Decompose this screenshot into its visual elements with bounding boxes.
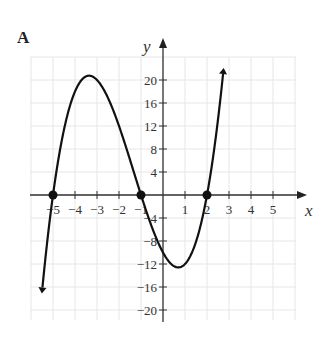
x-tick-label: −4 bbox=[68, 202, 82, 217]
y-tick-label: −20 bbox=[137, 303, 157, 318]
root-point bbox=[203, 191, 212, 200]
x-tick-label: −3 bbox=[90, 202, 104, 217]
y-axis-label: y bbox=[141, 37, 151, 56]
x-tick-label: 4 bbox=[248, 202, 255, 217]
cubic-function-chart: −5−4−3−2−11234520161284−4−8−12−16−20 x y bbox=[0, 0, 324, 347]
y-tick-label: 16 bbox=[144, 96, 158, 111]
x-tick-label: −5 bbox=[46, 202, 60, 217]
x-tick-label: 3 bbox=[226, 202, 233, 217]
y-tick-label: −12 bbox=[137, 257, 157, 272]
x-tick-label: −2 bbox=[112, 202, 126, 217]
y-tick-label: 4 bbox=[151, 165, 158, 180]
x-axis-label: x bbox=[304, 201, 313, 220]
x-tick-label: 1 bbox=[182, 202, 189, 217]
axes bbox=[30, 38, 307, 322]
function-curve bbox=[38, 68, 227, 293]
root-point bbox=[49, 191, 58, 200]
y-tick-label: 8 bbox=[151, 142, 158, 157]
y-tick-label: 12 bbox=[144, 119, 157, 134]
x-tick-label: 5 bbox=[270, 202, 277, 217]
root-point bbox=[137, 191, 146, 200]
y-tick-label: 20 bbox=[144, 73, 157, 88]
y-tick-label: −16 bbox=[137, 280, 158, 295]
